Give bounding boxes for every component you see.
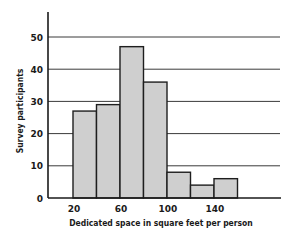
bar-120-140 — [191, 185, 215, 198]
y-tick-10: 10 — [30, 161, 43, 171]
bar-20-40 — [73, 111, 97, 198]
y-tick-40: 40 — [30, 65, 43, 75]
bar-140-160 — [214, 179, 238, 198]
y-tick-20: 20 — [30, 129, 43, 139]
bar-100-120 — [167, 172, 191, 198]
y-axis-title: Survey participants — [15, 68, 25, 153]
bar-60-80 — [120, 47, 144, 198]
x-tick-140: 140 — [206, 204, 225, 214]
bar-40-60 — [97, 105, 121, 198]
bar-80-100 — [144, 82, 168, 198]
x-tick-60: 60 — [115, 204, 128, 214]
y-tick-50: 50 — [30, 33, 43, 43]
x-tick-labels: 2060100140 — [68, 204, 225, 214]
x-axis-title: Dedicated space in square feet per perso… — [69, 218, 253, 228]
y-tick-0: 0 — [37, 194, 43, 204]
histogram-chart: 01020304050 2060100140 Dedicated space i… — [0, 0, 295, 239]
y-tick-labels: 01020304050 — [30, 33, 43, 204]
x-tick-100: 100 — [159, 204, 178, 214]
y-tick-30: 30 — [30, 97, 43, 107]
x-tick-20: 20 — [68, 204, 81, 214]
